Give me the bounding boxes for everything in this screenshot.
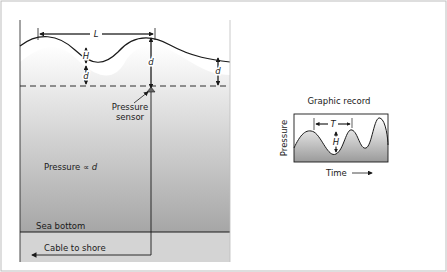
sea-bottom-label: Sea bottom — [36, 221, 85, 231]
record-height-label: H — [333, 137, 340, 147]
sensor-label-line2: sensor — [116, 112, 145, 122]
depth-label-left: d — [83, 71, 89, 81]
period-label: T — [330, 119, 336, 129]
wave-height-label: H — [83, 51, 90, 61]
x-axis-label: Time — [325, 168, 347, 178]
cable-label: Cable to shore — [44, 243, 106, 253]
pressure-relation: Pressure ∝ d — [44, 162, 98, 172]
wave-pressure-diagram: L H d d d Pressure sensor Pressure ∝ d S… — [0, 0, 447, 272]
depth-label-right: d — [215, 66, 221, 76]
graphic-record-title: Graphic record — [308, 96, 371, 106]
y-axis-label: Pressure — [279, 120, 289, 156]
water-body — [20, 46, 230, 232]
depth-label-center: d — [148, 57, 154, 67]
sensor-label-line1: Pressure — [112, 102, 148, 112]
wavelength-label: L — [94, 29, 99, 39]
